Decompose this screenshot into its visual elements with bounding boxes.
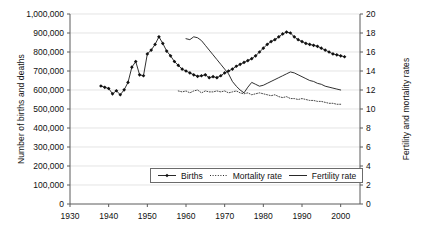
legend-item-label: Fertility rate — [312, 171, 356, 181]
data-point-marker — [331, 52, 335, 56]
data-point-marker — [215, 76, 219, 80]
data-series-layer — [99, 30, 346, 104]
chart-legend: BirthsMortality rateFertility rate — [150, 168, 363, 183]
chart-container: Number of births and deaths Fertility an… — [0, 0, 428, 243]
data-point-marker — [319, 46, 323, 50]
y-axis-right-tick-label: 10 — [366, 104, 375, 114]
gridlines — [70, 14, 360, 185]
data-point-marker — [157, 35, 161, 39]
data-point-marker — [161, 42, 165, 46]
data-point-marker — [308, 43, 312, 47]
y-axis-right-tick-label: 12 — [366, 85, 375, 95]
legend-item[interactable]: Fertility rate — [288, 171, 356, 181]
x-axis-tick-label: 1990 — [293, 211, 312, 221]
data-point-marker — [211, 75, 215, 79]
y-axis-right-tick-label: 20 — [366, 9, 375, 19]
x-axis-tick-label: 2000 — [331, 211, 350, 221]
legend-item[interactable]: Mortality rate — [209, 171, 282, 181]
data-point-marker — [126, 81, 130, 85]
x-axis-tick-label: 1930 — [61, 211, 80, 221]
y-axis-left-tick-label: 200,000 — [0, 161, 64, 171]
series-line-births — [101, 32, 345, 95]
x-axis-tick-label: 1980 — [254, 211, 273, 221]
data-point-marker — [304, 42, 308, 46]
y-axis-left-tick-label: 800,000 — [0, 47, 64, 57]
data-point-marker — [103, 86, 107, 90]
y-axis-left-tick-label: 0 — [0, 199, 64, 209]
y-axis-left-tick-label: 300,000 — [0, 142, 64, 152]
data-point-marker — [300, 40, 304, 44]
legend-swatch-icon — [209, 171, 229, 180]
y-axis-left-tick-label: 100,000 — [0, 180, 64, 190]
y-axis-right-tick-label: 4 — [366, 161, 371, 171]
y-axis-right-tick-label: 0 — [366, 199, 371, 209]
data-point-marker — [238, 63, 242, 67]
y-axis-left-tick-label: 700,000 — [0, 66, 64, 76]
chart-plot-area — [0, 0, 428, 243]
series-line-mortality-rate — [178, 90, 340, 104]
data-point-marker — [335, 53, 339, 57]
data-point-marker — [142, 74, 146, 78]
y-axis-right-tick-label: 16 — [366, 47, 375, 57]
data-point-marker — [242, 61, 246, 65]
data-point-marker — [188, 71, 192, 75]
data-point-marker — [343, 55, 347, 59]
y-axis-right-tick-label: 6 — [366, 142, 371, 152]
y-axis-right-tick-label: 2 — [366, 180, 371, 190]
data-point-marker — [184, 69, 188, 73]
y-axis-left-tick-label: 600,000 — [0, 85, 64, 95]
data-point-marker — [316, 44, 320, 48]
data-point-marker — [200, 74, 204, 78]
x-axis-tick-label: 1950 — [138, 211, 157, 221]
x-axis-tick-label: 1940 — [99, 211, 118, 221]
y-axis-right-title: Fertility and mortality rates — [401, 34, 411, 184]
data-point-marker — [323, 48, 327, 52]
data-point-marker — [196, 74, 200, 78]
legend-item[interactable]: Births — [157, 171, 203, 181]
y-axis-left-tick-label: 500,000 — [0, 104, 64, 114]
data-point-marker — [99, 84, 103, 88]
legend-swatch-icon — [288, 171, 308, 180]
y-axis-right-tick-label: 18 — [366, 28, 375, 38]
legend-item-label: Births — [181, 171, 203, 181]
data-point-marker — [246, 59, 250, 63]
y-axis-left-tick-label: 400,000 — [0, 123, 64, 133]
data-point-marker — [312, 44, 316, 48]
data-point-marker — [192, 73, 196, 77]
legend-item-label: Mortality rate — [233, 171, 282, 181]
data-point-marker — [327, 50, 331, 54]
data-point-marker — [339, 54, 343, 58]
y-axis-left-tick-label: 900,000 — [0, 28, 64, 38]
y-axis-right-tick-label: 14 — [366, 66, 375, 76]
data-point-marker — [138, 73, 142, 77]
x-axis-tick-label: 1960 — [177, 211, 196, 221]
y-axis-right-tick-label: 8 — [366, 123, 371, 133]
y-axis-left-tick-label: 1,000,000 — [0, 9, 64, 19]
x-axis-tick-label: 1970 — [215, 211, 234, 221]
legend-swatch-icon — [157, 171, 177, 180]
